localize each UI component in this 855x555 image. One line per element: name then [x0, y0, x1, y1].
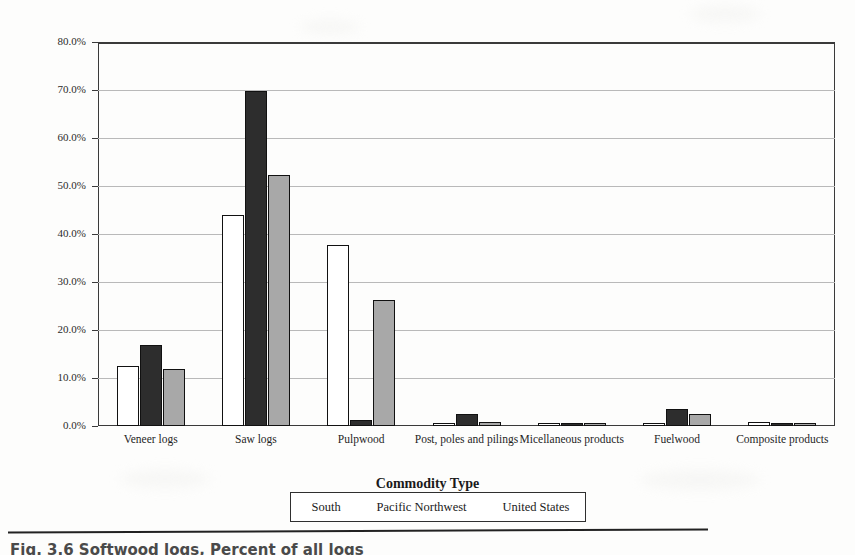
bar [117, 366, 139, 426]
bar [643, 423, 665, 426]
bar [748, 422, 770, 426]
y-axis-tick-label: 30.0% [26, 276, 86, 287]
y-axis-tick-label: 10.0% [26, 372, 86, 383]
bar-group [327, 42, 395, 426]
bar [538, 423, 560, 426]
y-axis-tick-label: 70.0% [26, 84, 86, 95]
bar [794, 423, 816, 426]
bar-group [643, 42, 711, 426]
y-axis-tick-label: 60.0% [26, 132, 86, 143]
legend-entry: Pacific Northwest [372, 500, 467, 515]
bar-group [433, 42, 501, 426]
y-axis-tick-label: 80.0% [26, 36, 86, 47]
bar [327, 245, 349, 426]
y-axis-tick-label: 50.0% [26, 180, 86, 191]
legend-entry: South [306, 500, 340, 515]
bar [163, 369, 185, 426]
bar [561, 423, 583, 426]
figure-caption: Fig. 3.6 Softwood logs, Percent of all l… [10, 541, 364, 555]
bar [771, 423, 793, 426]
bar-group [222, 42, 290, 426]
chart-legend: SouthPacific NorthwestUnited States [290, 492, 586, 522]
legend-label: Pacific Northwest [377, 500, 467, 515]
bar-group [117, 42, 185, 426]
bar-group [538, 42, 606, 426]
x-axis-labels: Veneer logsSaw logsPulpwoodPost, poles a… [98, 432, 835, 476]
bar-chart-figure: Percent of All Logs 0.0%10.0%20.0%30.0%4… [0, 0, 855, 555]
bar [245, 91, 267, 426]
bar [479, 422, 501, 426]
legend-label: United States [502, 500, 569, 515]
bar [584, 423, 606, 426]
bar [140, 345, 162, 426]
bar [689, 414, 711, 426]
y-axis-tick-label: 0.0% [26, 420, 86, 431]
y-axis-tick-label: 20.0% [26, 324, 86, 335]
bar [350, 420, 372, 426]
legend-label: South [311, 500, 340, 515]
bar [433, 423, 455, 426]
x-axis-title: Commodity Type [0, 476, 855, 492]
bar [373, 300, 395, 426]
legend-entry: United States [497, 500, 569, 515]
x-axis-tick-label: Composite products [717, 432, 848, 446]
y-axis-tick-label: 40.0% [26, 228, 86, 239]
bar [268, 175, 290, 426]
bar [222, 215, 244, 426]
bar [666, 409, 688, 426]
bar [456, 414, 478, 426]
y-axis-tick-mark [92, 426, 98, 427]
bars-layer [98, 42, 835, 426]
caption-divider-rule [8, 528, 708, 533]
bar-group [748, 42, 816, 426]
